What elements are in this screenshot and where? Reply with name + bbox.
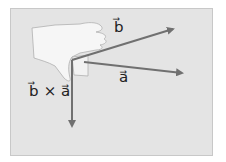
right-hand-rule-diagram: [0, 0, 226, 162]
label-a: a⃗: [119, 70, 128, 85]
vector-a-arrow: [84, 62, 182, 73]
label-b: b⃗: [114, 20, 124, 35]
hand-icon: [32, 23, 106, 81]
label-b-cross-a: b⃗ × a⃗: [29, 84, 70, 99]
